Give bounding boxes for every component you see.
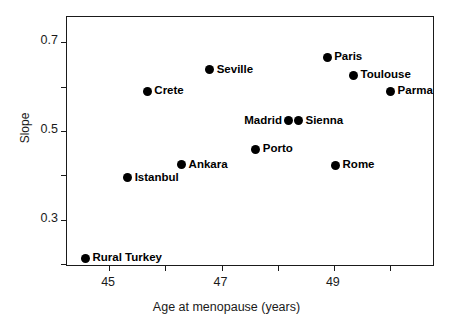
data-point-marker[interactable] [331, 161, 340, 170]
x-axis-tick [222, 265, 223, 271]
y-axis-tick [61, 87, 67, 88]
data-point-label: Rome [343, 159, 375, 171]
data-point-marker[interactable] [177, 160, 186, 169]
y-axis-tick [61, 175, 67, 176]
x-axis-tick [278, 265, 279, 271]
y-axis-tick-label: 0.5 [24, 122, 58, 136]
x-axis-tick-label: 47 [201, 275, 241, 289]
y-axis-tick-label: 0.7 [24, 33, 58, 47]
data-point-label: Istanbul [135, 172, 179, 184]
data-point-label: Crete [154, 85, 183, 97]
x-axis-tick [109, 265, 110, 271]
x-axis-tick [390, 265, 391, 271]
data-point-marker[interactable] [81, 254, 90, 263]
data-point-marker[interactable] [323, 53, 332, 62]
data-point-label: Rural Turkey [93, 252, 162, 264]
data-point-label: Madrid [244, 115, 282, 127]
data-point-label: Seville [217, 64, 253, 76]
data-point-marker[interactable] [284, 116, 293, 125]
data-point-label: Parma [398, 85, 433, 97]
x-axis-title: Age at menopause (years) [0, 300, 453, 314]
y-axis-tick [61, 42, 67, 43]
data-point-label: Paris [334, 51, 362, 63]
x-axis-tick [165, 265, 166, 271]
x-axis-tick-label: 45 [88, 275, 128, 289]
scatter-chart-figure: Slope Age at menopause (years) 0.70.50.3… [0, 0, 453, 329]
data-point-label: Sienna [305, 115, 343, 127]
plot-area: Rural TurkeyIstanbulCreteAnkaraSevillePo… [66, 16, 434, 266]
data-point-marker[interactable] [294, 116, 303, 125]
y-axis-tick [61, 264, 67, 265]
y-axis-tick [61, 131, 67, 132]
data-point-marker[interactable] [251, 145, 260, 154]
x-axis-tick [334, 265, 335, 271]
data-point-label: Toulouse [361, 69, 411, 81]
data-point-marker[interactable] [386, 87, 395, 96]
y-axis-tick [61, 220, 67, 221]
data-point-marker[interactable] [123, 173, 132, 182]
x-axis-tick-label: 49 [313, 275, 353, 289]
data-point-marker[interactable] [205, 65, 214, 74]
data-point-label: Ankara [189, 159, 228, 171]
data-point-label: Porto [263, 143, 293, 155]
y-axis-tick-label: 0.3 [24, 211, 58, 225]
data-point-marker[interactable] [143, 87, 152, 96]
data-point-marker[interactable] [349, 71, 358, 80]
